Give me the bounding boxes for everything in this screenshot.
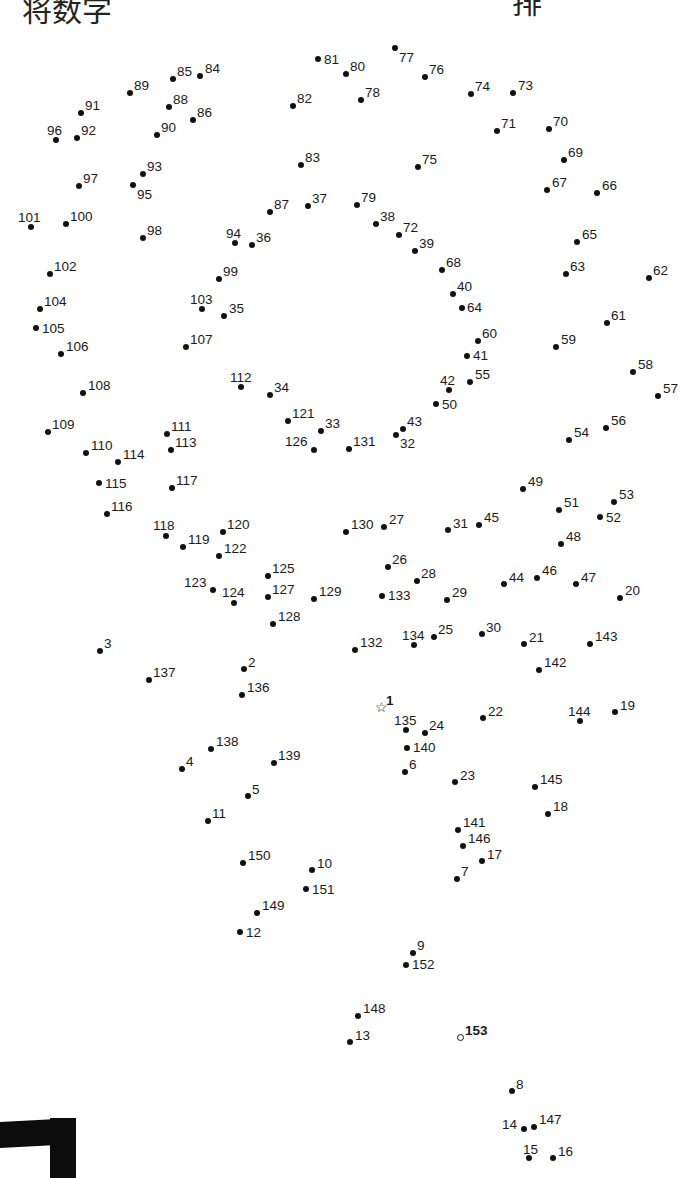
dot-number-label: 70	[553, 115, 568, 129]
dot	[604, 320, 610, 326]
dot	[476, 522, 482, 528]
dot	[318, 428, 324, 434]
dot-number-label: 99	[223, 265, 238, 279]
dot	[480, 715, 486, 721]
dot	[216, 276, 222, 282]
dot	[267, 392, 273, 398]
dot	[115, 459, 121, 465]
dot	[392, 45, 398, 51]
dot	[556, 507, 562, 513]
dot	[305, 203, 311, 209]
dot-number-label: 76	[429, 63, 444, 77]
dot-number-label: 94	[226, 227, 241, 241]
dot	[385, 564, 391, 570]
dot-number-label: 45	[484, 511, 499, 525]
dot-number-label: 74	[475, 80, 490, 94]
dot-number-label: 105	[42, 322, 65, 336]
dot	[403, 962, 409, 968]
dot-number-label: 124	[222, 586, 245, 600]
dot-number-label: 85	[177, 65, 192, 79]
dot	[459, 305, 465, 311]
dot	[221, 313, 227, 319]
dot-number-label: 108	[88, 379, 111, 393]
dot-number-label: 148	[363, 1002, 386, 1016]
dot-number-label: 92	[81, 124, 96, 138]
dot-number-label: 110	[91, 439, 113, 453]
dot	[611, 499, 617, 505]
dot-number-label: 46	[542, 564, 557, 578]
dot-number-label: 96	[47, 124, 62, 138]
dot	[450, 291, 456, 297]
dot-number-label: 125	[272, 562, 295, 576]
dot-number-label: 117	[176, 474, 198, 488]
dot-number-label: 114	[123, 448, 145, 462]
dot-number-label: 118	[153, 519, 175, 533]
dot	[355, 1013, 361, 1019]
dot-number-label: 143	[595, 630, 618, 644]
dot-number-label: 152	[412, 958, 435, 972]
dot	[190, 117, 196, 123]
dot-number-label: 80	[350, 60, 365, 74]
dot-number-label: 56	[611, 414, 626, 428]
dot-number-label: 28	[421, 567, 436, 581]
dot-number-label: 53	[619, 488, 634, 502]
dot-number-label: 9	[417, 939, 425, 953]
dot	[460, 843, 466, 849]
dot-number-label: 126	[285, 435, 308, 449]
dot	[216, 553, 222, 559]
corner-crop-mark	[0, 1118, 76, 1178]
dot-number-label: 31	[453, 517, 468, 531]
dot	[285, 418, 291, 424]
dot	[45, 429, 51, 435]
dot	[146, 677, 152, 683]
dot-number-label: 21	[529, 631, 544, 645]
dot	[396, 232, 402, 238]
dot-number-label: 30	[486, 621, 501, 635]
dot-number-label: 73	[518, 79, 533, 93]
dot	[439, 267, 445, 273]
dot	[558, 541, 564, 547]
dot-number-label: 40	[457, 280, 472, 294]
dot-number-label: 33	[325, 417, 340, 431]
dot-number-label: 57	[663, 382, 678, 396]
dot-number-label: 1	[386, 694, 394, 708]
dot	[536, 667, 542, 673]
dot-number-label: 115	[105, 477, 127, 491]
dot-number-label: 32	[400, 437, 415, 451]
dot-number-label: 86	[197, 106, 212, 120]
dot-number-label: 15	[523, 1143, 538, 1157]
dot	[501, 581, 507, 587]
dot-number-label: 23	[460, 769, 475, 783]
dot	[170, 76, 176, 82]
dot-number-label: 16	[558, 1145, 573, 1159]
dot-number-label: 62	[653, 264, 668, 278]
dot-number-label: 50	[442, 398, 457, 412]
dot	[521, 641, 527, 647]
dot-number-label: 59	[561, 333, 576, 347]
dot	[37, 306, 43, 312]
dot-number-label: 121	[292, 407, 315, 421]
dot	[210, 587, 216, 593]
dot-number-label: 60	[482, 327, 497, 341]
dot-number-label: 49	[528, 475, 543, 489]
dot-number-label: 39	[419, 237, 434, 251]
dot-number-label: 26	[392, 553, 407, 567]
dot-number-label: 102	[54, 260, 77, 274]
dot-number-label: 93	[147, 160, 162, 174]
dot-number-label: 88	[173, 93, 188, 107]
dot	[309, 867, 315, 873]
dot-number-label: 52	[606, 511, 621, 525]
dot	[594, 190, 600, 196]
dot-number-label: 79	[361, 191, 376, 205]
dot-number-label: 72	[403, 221, 418, 235]
dot	[237, 929, 243, 935]
dot	[74, 135, 80, 141]
dot	[239, 692, 245, 698]
dot	[83, 450, 89, 456]
dot	[265, 594, 271, 600]
dot	[655, 393, 661, 399]
dot-number-label: 153	[465, 1024, 488, 1038]
dot	[290, 103, 296, 109]
dot	[630, 369, 636, 375]
dot	[454, 876, 460, 882]
